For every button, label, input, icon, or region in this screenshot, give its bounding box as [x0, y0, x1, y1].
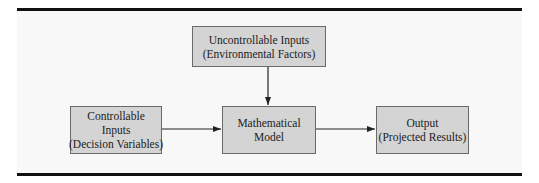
box-line: (Environmental Factors)	[203, 47, 316, 61]
box-line: Uncontrollable Inputs	[203, 33, 316, 47]
box-line: Mathematical	[237, 116, 300, 130]
box-line: Model	[237, 130, 300, 144]
box-line: Output	[379, 116, 467, 130]
controllable-inputs-box: Controllable Inputs (Decision Variables)	[70, 106, 162, 154]
box-line: (Projected Results)	[379, 130, 467, 144]
output-box: Output (Projected Results)	[376, 106, 469, 154]
box-line: Inputs	[69, 123, 163, 137]
box-line: Controllable	[69, 109, 163, 123]
uncontrollable-inputs-box: Uncontrollable Inputs (Environmental Fac…	[192, 26, 326, 67]
mathematical-model-box: Mathematical Model	[222, 106, 316, 154]
box-line: (Decision Variables)	[69, 137, 163, 151]
